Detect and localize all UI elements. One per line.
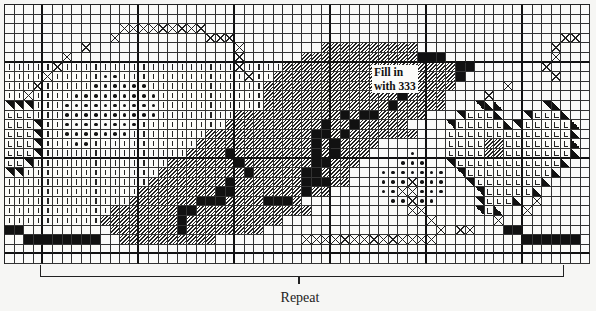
grid-cell xyxy=(427,159,437,169)
grid-cell xyxy=(5,245,15,255)
grid-cell xyxy=(418,111,428,121)
grid-cell xyxy=(552,15,562,25)
grid-row xyxy=(5,197,590,207)
grid-row xyxy=(5,130,590,140)
grid-cell xyxy=(341,168,351,178)
grid-cell xyxy=(494,149,504,159)
grid-cell xyxy=(552,63,562,73)
grid-cell xyxy=(379,15,389,25)
grid-cell xyxy=(437,245,447,255)
grid-cell xyxy=(111,53,121,63)
grid-cell xyxy=(360,197,370,207)
grid-cell xyxy=(5,111,15,121)
grid-cell xyxy=(274,34,284,44)
grid-cell xyxy=(264,111,274,121)
grid-cell xyxy=(72,254,82,264)
grid-cell xyxy=(226,130,236,140)
grid-cell xyxy=(72,159,82,169)
grid-cell xyxy=(283,34,293,44)
grid-cell xyxy=(446,130,456,140)
grid-cell xyxy=(178,91,188,101)
grid-cell xyxy=(331,43,341,53)
grid-cell xyxy=(34,82,44,92)
grid-cell xyxy=(408,235,418,245)
grid-cell xyxy=(235,63,245,73)
grid-cell xyxy=(322,111,332,121)
grid-cell xyxy=(235,235,245,245)
grid-cell xyxy=(494,197,504,207)
grid-cell xyxy=(389,216,399,226)
grid-cell xyxy=(5,43,15,53)
grid-cell xyxy=(523,53,533,63)
grid-row xyxy=(5,101,590,111)
grid-cell xyxy=(398,130,408,140)
grid-cell xyxy=(264,91,274,101)
grid-cell xyxy=(581,120,591,130)
grid-cell xyxy=(149,254,159,264)
grid-cell xyxy=(533,101,543,111)
grid-cell xyxy=(504,120,514,130)
grid-cell xyxy=(523,15,533,25)
grid-cell xyxy=(101,34,111,44)
grid-cell xyxy=(206,149,216,159)
grid-cell xyxy=(24,245,34,255)
grid-cell xyxy=(581,149,591,159)
grid-cell xyxy=(5,159,15,169)
grid-cell xyxy=(341,24,351,34)
grid-cell xyxy=(178,130,188,140)
grid-cell xyxy=(235,5,245,15)
grid-cell xyxy=(168,34,178,44)
grid-cell xyxy=(494,34,504,44)
grid-cell xyxy=(456,24,466,34)
grid-cell xyxy=(581,159,591,169)
grid-cell xyxy=(418,72,428,82)
grid-cell xyxy=(533,43,543,53)
grid-cell xyxy=(53,206,63,216)
grid-cell xyxy=(504,226,514,236)
grid-cell xyxy=(216,120,226,130)
grid-cell xyxy=(168,101,178,111)
grid-cell xyxy=(226,120,236,130)
stitch-chart xyxy=(4,4,590,268)
grid-cell xyxy=(264,130,274,140)
grid-cell xyxy=(475,43,485,53)
grid-cell xyxy=(24,120,34,130)
grid-cell xyxy=(63,197,73,207)
grid-cell xyxy=(34,24,44,34)
grid-cell xyxy=(494,159,504,169)
grid-cell xyxy=(523,216,533,226)
grid-cell xyxy=(120,168,130,178)
grid-cell xyxy=(15,43,25,53)
grid-cell xyxy=(418,254,428,264)
grid-cell xyxy=(446,34,456,44)
grid-cell xyxy=(427,197,437,207)
grid-cell xyxy=(235,197,245,207)
grid-cell xyxy=(91,15,101,25)
grid-cell xyxy=(466,72,476,82)
grid-cell xyxy=(456,168,466,178)
grid-cell xyxy=(485,82,495,92)
grid-cell xyxy=(437,53,447,63)
grid-cell xyxy=(418,5,428,15)
grid-cell xyxy=(437,216,447,226)
grid-cell xyxy=(466,178,476,188)
grid-cell xyxy=(43,226,53,236)
grid-cell xyxy=(389,178,399,188)
grid-cell xyxy=(34,91,44,101)
grid-cell xyxy=(245,235,255,245)
grid-cell xyxy=(5,101,15,111)
grid-cell xyxy=(197,245,207,255)
grid-cell xyxy=(408,226,418,236)
grid-cell xyxy=(130,130,140,140)
grid-cell xyxy=(130,235,140,245)
grid-cell xyxy=(235,159,245,169)
grid-cell xyxy=(235,149,245,159)
grid-cell xyxy=(312,120,322,130)
grid-cell xyxy=(379,226,389,236)
grid-cell xyxy=(571,120,581,130)
grid-cell xyxy=(437,139,447,149)
grid-cell xyxy=(494,235,504,245)
grid-cell xyxy=(331,139,341,149)
grid-cell xyxy=(226,72,236,82)
grid-cell xyxy=(418,91,428,101)
